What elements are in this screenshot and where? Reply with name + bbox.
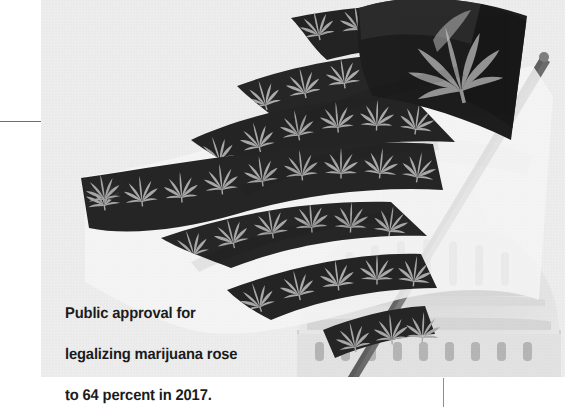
caption-line-1: Public approval for: [65, 304, 298, 325]
photo-caption: Public approval for legalizing marijuana…: [65, 283, 298, 407]
caption-line-3: to 64 percent in 2017.: [65, 386, 298, 407]
bottom-right-rule: [443, 378, 444, 407]
page-stage: Public approval for legalizing marijuana…: [0, 0, 565, 407]
caption-line-2: legalizing marijuana rose: [65, 345, 298, 366]
left-margin-rule: [0, 121, 42, 122]
